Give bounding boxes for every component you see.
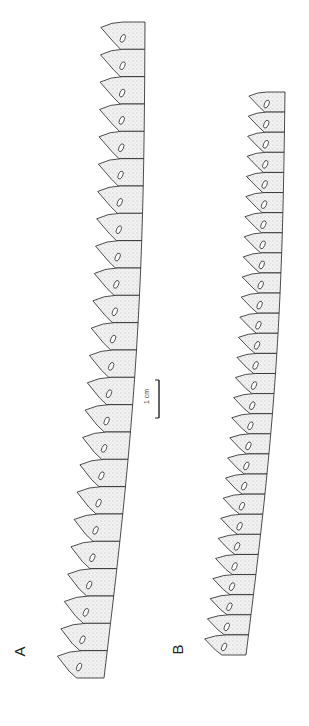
- panel-label-b: B: [170, 644, 185, 654]
- vertebra: [61, 623, 111, 650]
- vertebra: [68, 569, 117, 596]
- panel-label-a: A: [12, 646, 27, 656]
- panel-a-column: [57, 22, 145, 678]
- panel-b-column: [205, 92, 285, 655]
- figure: A B 1 cm: [0, 0, 309, 726]
- vertebra: [64, 596, 113, 623]
- scale-bar: [155, 380, 159, 418]
- scale-bar-label: 1 cm: [143, 389, 150, 404]
- vertebra: [57, 651, 107, 678]
- vertebral-columns-drawing: [0, 0, 309, 726]
